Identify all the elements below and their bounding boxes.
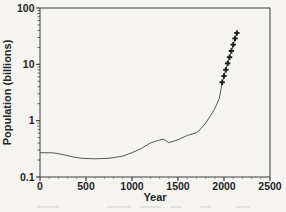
cropped-caption-remnant [0,206,286,210]
caption-smudge [107,206,131,208]
x-tick-label: 2500 [258,180,282,192]
x-tick-label: 1500 [166,180,190,192]
y-tick-label: 1 [29,114,35,126]
x-tick-label: 500 [77,180,95,192]
population-line [40,33,237,159]
caption-smudge [37,206,59,208]
x-tick-label: 2000 [212,180,236,192]
caption-smudge [200,206,211,208]
y-tick-label: 0.1 [20,171,35,183]
projection-plus-markers [219,30,239,85]
caption-smudge [140,206,161,208]
x-tick-label: 1000 [120,180,144,192]
scanned-figure-page: 05001000150020002500 0.1110100 Year Popu… [0,0,286,212]
population-vs-year-chart: 05001000150020002500 0.1110100 Year Popu… [0,0,286,212]
y-tick-label: 10 [23,58,35,70]
y-axis-tick-labels: 0.1110100 [17,2,35,183]
x-axis-title: Year [143,191,167,203]
caption-smudge [170,206,182,208]
y-tick-label: 100 [17,2,35,14]
y-axis-title: Population (billions) [1,39,13,145]
caption-smudge [236,206,250,208]
y-axis-major-ticks [36,8,40,177]
x-tick-label: 0 [37,180,43,192]
